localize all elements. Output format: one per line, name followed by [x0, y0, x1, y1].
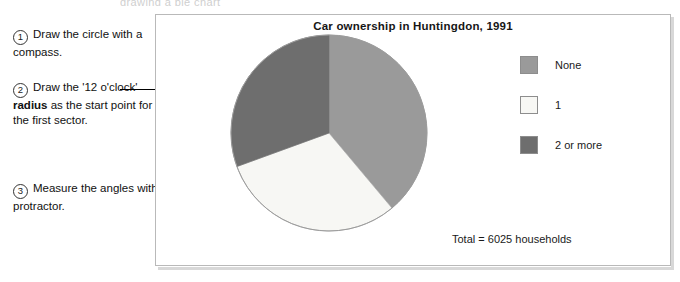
annotation-step-2-bold-word: radius: [13, 99, 48, 111]
annotation-step-2: 2Draw the '12 o'clock' radius as the sta…: [13, 80, 163, 127]
panel-shadow-right: [671, 17, 674, 270]
legend-swatch-two-or-more: [520, 136, 538, 154]
cropped-header-sliver: drawing a pie chart: [120, 0, 320, 6]
step-number-3: 3: [13, 184, 28, 199]
pie-chart: [230, 34, 428, 232]
legend-item-two-or-more[interactable]: 2 or more: [520, 136, 650, 154]
pie-chart-svg: [230, 34, 428, 232]
annotation-step-3-text: Measure the angles with a protractor.: [13, 182, 167, 212]
step-number-1: 1: [13, 30, 28, 45]
annotation-step-1-text: Draw the circle with a compass.: [13, 28, 142, 58]
chart-total-label: Total = 6025 households: [452, 233, 572, 245]
legend-swatch-one: [520, 96, 538, 114]
legend-item-one[interactable]: 1: [520, 96, 650, 114]
legend-label-none: None: [555, 59, 581, 71]
legend-label-one: 1: [555, 99, 561, 111]
pie-slice-group: [231, 35, 427, 231]
step-number-2: 2: [13, 83, 28, 98]
annotation-step-3: 3Measure the angles with a protractor.: [13, 181, 173, 214]
chart-legend: None 1 2 or more: [520, 56, 650, 176]
annotation-step-2-text-before: Draw the '12 o'clock': [33, 81, 137, 93]
panel-shadow-bottom: [158, 267, 674, 270]
chart-title: Car ownership in Huntingdon, 1991: [156, 20, 670, 32]
legend-label-two-or-more: 2 or more: [555, 139, 602, 151]
annotation-step-1: 1Draw the circle with a compass.: [13, 27, 163, 60]
legend-swatch-none: [520, 56, 538, 74]
chart-panel: Car ownership in Huntingdon, 1991 None 1…: [155, 14, 671, 266]
legend-item-none[interactable]: None: [520, 56, 650, 74]
